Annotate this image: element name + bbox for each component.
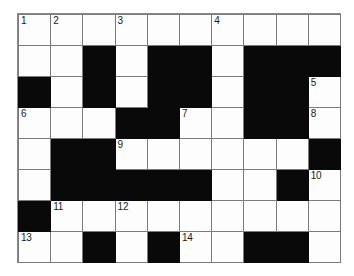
crossword-open-cell[interactable]: [276, 139, 308, 170]
crossword-open-cell[interactable]: [147, 15, 179, 46]
crossword-block-cell: [83, 46, 115, 77]
crossword-block-cell: [83, 139, 115, 170]
crossword-block-cell: [147, 108, 179, 139]
cell-number: 3: [118, 15, 123, 27]
cell-number: 10: [311, 170, 322, 182]
crossword-open-cell[interactable]: [83, 108, 115, 139]
crossword-block-cell: [244, 46, 276, 77]
crossword-open-cell[interactable]: [51, 77, 83, 108]
crossword-open-cell[interactable]: [212, 77, 244, 108]
crossword-block-cell: [147, 170, 179, 201]
crossword-open-cell[interactable]: [83, 201, 115, 232]
cell-number: 5: [311, 77, 316, 89]
crossword-grid-body: 1234567891011121314: [19, 15, 341, 263]
crossword-block-cell: [51, 139, 83, 170]
crossword-block-cell: [83, 77, 115, 108]
crossword-open-cell[interactable]: [244, 139, 276, 170]
crossword-open-cell[interactable]: [19, 170, 51, 201]
crossword-open-cell[interactable]: 13: [19, 232, 51, 263]
crossword-block-cell: [115, 170, 147, 201]
cell-number: 11: [53, 201, 63, 213]
crossword-open-cell[interactable]: [19, 46, 51, 77]
crossword-block-cell: [276, 232, 308, 263]
crossword-open-cell[interactable]: 3: [115, 15, 147, 46]
cell-number: 8: [311, 108, 316, 120]
cell-number: 13: [21, 232, 32, 244]
crossword-open-cell[interactable]: 7: [179, 108, 211, 139]
crossword-open-cell[interactable]: [115, 77, 147, 108]
crossword-block-cell: [244, 77, 276, 108]
crossword-row: [19, 46, 341, 77]
crossword-open-cell[interactable]: 8: [308, 108, 340, 139]
crossword-open-cell[interactable]: 1: [19, 15, 51, 46]
cell-number: 7: [182, 108, 187, 120]
crossword-open-cell[interactable]: [276, 201, 308, 232]
crossword-open-cell[interactable]: [212, 46, 244, 77]
crossword-open-cell[interactable]: [115, 46, 147, 77]
crossword-open-cell[interactable]: [83, 15, 115, 46]
crossword-block-cell: [115, 108, 147, 139]
crossword-open-cell[interactable]: 12: [115, 201, 147, 232]
crossword-block-cell: [276, 170, 308, 201]
crossword-open-cell[interactable]: [147, 201, 179, 232]
crossword-block-cell: [308, 139, 340, 170]
crossword-open-cell[interactable]: 4: [212, 15, 244, 46]
crossword-open-cell[interactable]: 5: [308, 77, 340, 108]
crossword-open-cell[interactable]: 9: [115, 139, 147, 170]
crossword-open-cell[interactable]: [276, 15, 308, 46]
crossword-open-cell[interactable]: [147, 139, 179, 170]
crossword-open-cell[interactable]: 11: [51, 201, 83, 232]
cell-number: 12: [118, 201, 129, 213]
crossword-block-cell: [147, 232, 179, 263]
crossword-open-cell[interactable]: 10: [308, 170, 340, 201]
crossword-open-cell[interactable]: [115, 232, 147, 263]
crossword-row: 1234: [19, 15, 341, 46]
crossword-row: 5: [19, 77, 341, 108]
crossword-open-cell[interactable]: [212, 201, 244, 232]
crossword-block-cell: [244, 232, 276, 263]
crossword-block-cell: [308, 46, 340, 77]
crossword-row: 678: [19, 108, 341, 139]
crossword-row: 10: [19, 170, 341, 201]
crossword-block-cell: [83, 232, 115, 263]
crossword-row: 1112: [19, 201, 341, 232]
crossword-grid[interactable]: 1234567891011121314: [18, 14, 341, 263]
crossword-puzzle: 1234567891011121314: [0, 0, 354, 276]
crossword-block-cell: [19, 77, 51, 108]
crossword-block-cell: [179, 170, 211, 201]
crossword-open-cell[interactable]: [51, 232, 83, 263]
crossword-open-cell[interactable]: [212, 170, 244, 201]
crossword-block-cell: [147, 77, 179, 108]
crossword-open-cell[interactable]: 6: [19, 108, 51, 139]
crossword-open-cell[interactable]: 2: [51, 15, 83, 46]
crossword-open-cell[interactable]: [179, 201, 211, 232]
crossword-open-cell[interactable]: 14: [179, 232, 211, 263]
crossword-open-cell[interactable]: [308, 15, 340, 46]
crossword-open-cell[interactable]: [19, 139, 51, 170]
crossword-block-cell: [179, 46, 211, 77]
cell-number: 1: [21, 15, 26, 27]
crossword-block-cell: [51, 170, 83, 201]
crossword-open-cell[interactable]: [51, 46, 83, 77]
cell-number: 2: [53, 15, 58, 27]
crossword-open-cell[interactable]: [244, 170, 276, 201]
cell-number: 14: [182, 232, 193, 244]
cell-number: 9: [118, 139, 123, 151]
crossword-open-cell[interactable]: [308, 232, 340, 263]
crossword-open-cell[interactable]: [212, 108, 244, 139]
crossword-open-cell[interactable]: [179, 15, 211, 46]
crossword-block-cell: [276, 108, 308, 139]
crossword-open-cell[interactable]: [308, 201, 340, 232]
crossword-block-cell: [147, 46, 179, 77]
crossword-block-cell: [83, 170, 115, 201]
crossword-open-cell[interactable]: [244, 15, 276, 46]
crossword-block-cell: [19, 201, 51, 232]
crossword-open-cell[interactable]: [51, 108, 83, 139]
crossword-open-cell[interactable]: [212, 232, 244, 263]
crossword-block-cell: [276, 46, 308, 77]
crossword-open-cell[interactable]: [212, 139, 244, 170]
crossword-block-cell: [179, 77, 211, 108]
crossword-open-cell[interactable]: [179, 139, 211, 170]
crossword-open-cell[interactable]: [244, 201, 276, 232]
crossword-block-cell: [244, 108, 276, 139]
